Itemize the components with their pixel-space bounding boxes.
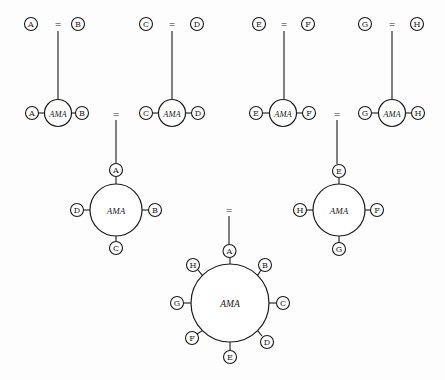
svg-text:H: H [415, 109, 422, 118]
stage2-complex-cd: C AMA D [140, 100, 205, 127]
svg-text:F: F [189, 334, 195, 343]
node-b: B [259, 259, 272, 272]
node-d: D [192, 107, 205, 120]
stage3-complex-abcd: AMA A B C D [71, 164, 162, 255]
equals-sign: = [334, 108, 340, 120]
svg-text:B: B [75, 20, 81, 29]
stage2-complex-gh: G AMA H [359, 100, 425, 127]
svg-text:C: C [280, 299, 286, 308]
svg-text:B: B [79, 109, 85, 118]
stage3-complex-efgh: AMA E F G H [294, 165, 384, 256]
equals-sign: = [389, 18, 395, 30]
equals-sign: = [281, 18, 287, 30]
ama-hub: AMA [191, 264, 269, 342]
node-f: F [303, 107, 316, 120]
svg-text:A: A [226, 247, 233, 256]
node-g: G [333, 243, 346, 256]
node-a: A [26, 107, 39, 120]
ama-hub: AMA [159, 100, 186, 127]
svg-text:C: C [143, 20, 149, 29]
node-a: A [25, 18, 38, 31]
ama-hub: AMA [379, 100, 406, 127]
node-f: F [186, 332, 199, 345]
equals-sign: = [55, 18, 61, 30]
svg-text:A: A [112, 166, 119, 175]
ama-assembly-diagram: A = B C = D E = F G = H A AMA B C AMA D [0, 0, 445, 380]
node-e: E [333, 165, 346, 178]
node-e: E [224, 351, 237, 364]
svg-text:B: B [152, 206, 158, 215]
node-c: C [110, 242, 123, 255]
svg-text:E: E [336, 167, 342, 176]
stage1-pair-ef: E = F [253, 18, 315, 100]
node-d: D [261, 336, 274, 349]
stage4-complex-full: AMA A B C D E F G H [171, 245, 290, 364]
svg-text:H: H [297, 206, 304, 215]
equals-sign: = [113, 108, 119, 120]
svg-text:G: G [362, 109, 368, 118]
node-f: F [302, 18, 315, 31]
svg-text:G: G [362, 20, 368, 29]
node-e: E [250, 107, 263, 120]
svg-text:D: D [264, 338, 270, 347]
svg-text:F: F [374, 206, 380, 215]
svg-text:C: C [113, 244, 119, 253]
svg-text:A: A [27, 20, 34, 29]
node-g: G [171, 297, 184, 310]
node-h: H [294, 204, 307, 217]
svg-text:C: C [143, 109, 149, 118]
node-b: B [76, 107, 89, 120]
svg-text:AMA: AMA [219, 299, 240, 309]
svg-text:A: A [28, 109, 35, 118]
svg-text:B: B [262, 261, 268, 270]
node-g: G [359, 18, 372, 31]
svg-text:D: D [74, 206, 80, 215]
node-c: C [140, 107, 153, 120]
svg-text:G: G [174, 299, 180, 308]
stage2-complex-ab: A AMA B [26, 100, 89, 127]
ama-hub: AMA [313, 184, 365, 236]
node-g: G [359, 107, 372, 120]
svg-text:AMA: AMA [329, 206, 349, 216]
svg-text:AMA: AMA [273, 109, 292, 119]
node-e: E [253, 18, 266, 31]
equals-sign: = [169, 18, 175, 30]
node-a: A [223, 245, 236, 258]
ama-hub: AMA [45, 100, 72, 127]
svg-text:AMA: AMA [48, 109, 67, 119]
node-h: H [411, 18, 424, 31]
node-d: D [71, 204, 84, 217]
ama-hub: AMA [270, 100, 297, 127]
stage2-complex-ef: E AMA F [250, 100, 316, 127]
stage1-pair-cd: C = D [140, 18, 204, 100]
svg-text:AMA: AMA [382, 109, 401, 119]
node-a: A [110, 164, 123, 177]
ama-hub: AMA [90, 184, 142, 236]
svg-text:F: F [306, 109, 312, 118]
stage1-pair-gh: G = H [359, 18, 424, 100]
svg-text:F: F [305, 20, 311, 29]
svg-text:E: E [253, 109, 259, 118]
stage1-pair-ab: A = B [25, 18, 85, 100]
node-h: H [187, 259, 200, 272]
equals-sign: = [226, 204, 232, 216]
svg-text:E: E [256, 20, 262, 29]
svg-text:D: D [195, 109, 201, 118]
node-d: D [191, 18, 204, 31]
node-b: B [149, 204, 162, 217]
node-b: B [72, 18, 85, 31]
svg-text:D: D [194, 20, 200, 29]
svg-text:E: E [227, 353, 233, 362]
node-h: H [412, 107, 425, 120]
svg-text:AMA: AMA [106, 206, 126, 216]
node-f: F [371, 204, 384, 217]
svg-text:G: G [336, 245, 342, 254]
svg-text:AMA: AMA [162, 109, 181, 119]
svg-text:H: H [190, 261, 197, 270]
svg-text:H: H [414, 20, 421, 29]
node-c: C [277, 297, 290, 310]
node-c: C [140, 18, 153, 31]
